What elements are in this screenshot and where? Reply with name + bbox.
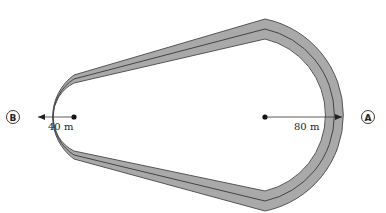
point-a-marker: A bbox=[362, 111, 375, 124]
radius-label-large: 80 m bbox=[294, 121, 320, 132]
point-b-label: B bbox=[10, 113, 17, 123]
point-b-marker: B bbox=[7, 111, 20, 124]
track-infield bbox=[53, 39, 325, 191]
racetrack-diagram: 40 m 80 m B A bbox=[0, 0, 386, 213]
radius-label-small: 40 m bbox=[48, 121, 74, 132]
point-a-label: A bbox=[365, 113, 372, 123]
